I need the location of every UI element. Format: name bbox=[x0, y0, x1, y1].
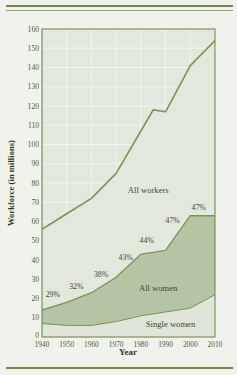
y-tick-label: 110 bbox=[28, 121, 39, 130]
percentage-annotation: 44% bbox=[140, 236, 155, 245]
y-tick-label: 100 bbox=[28, 140, 40, 149]
percentage-annotation: 47% bbox=[166, 216, 181, 225]
x-axis-title: Year bbox=[119, 347, 137, 357]
area-label: All workers bbox=[128, 185, 169, 195]
chart-figure: 102030405060708090100110120130140150160 … bbox=[0, 0, 237, 375]
percentage-annotation: 38% bbox=[94, 270, 109, 279]
y-tick-label: 160 bbox=[28, 25, 40, 34]
percentage-annotation: 29% bbox=[46, 290, 61, 299]
y-tick-label: 70 bbox=[31, 198, 39, 207]
percentage-annotation: 32% bbox=[69, 282, 84, 291]
y-tick-label: 150 bbox=[28, 44, 40, 53]
y-tick-label: 90 bbox=[31, 159, 39, 168]
x-tick-label: 1960 bbox=[84, 340, 99, 349]
y-tick-label: 20 bbox=[31, 294, 39, 303]
x-tick-label: 2000 bbox=[183, 340, 198, 349]
area-label: Single women bbox=[146, 319, 196, 329]
y-tick-label: 10 bbox=[31, 313, 39, 322]
y-axis-title: Workforce (in millions) bbox=[7, 140, 16, 226]
y-tick-label: 40 bbox=[31, 256, 39, 265]
percentage-annotation: 43% bbox=[119, 253, 134, 262]
x-tick-label: 1950 bbox=[59, 340, 74, 349]
y-tick-label: 120 bbox=[28, 102, 40, 111]
x-tick-label: 1990 bbox=[158, 340, 173, 349]
y-tick-label: 130 bbox=[28, 82, 40, 91]
y-tick-label: 140 bbox=[28, 63, 40, 72]
percentage-annotation: 47% bbox=[192, 203, 207, 212]
origin-zero-label: 0 bbox=[35, 331, 39, 340]
area-label: All women bbox=[139, 283, 178, 293]
x-tick-label: 2010 bbox=[208, 340, 223, 349]
x-tick-label: 1940 bbox=[35, 340, 50, 349]
y-axis-tick-labels: 102030405060708090100110120130140150160 bbox=[28, 25, 40, 323]
y-tick-label: 60 bbox=[31, 217, 39, 226]
y-tick-label: 50 bbox=[31, 236, 39, 245]
workforce-area-chart: 102030405060708090100110120130140150160 … bbox=[0, 0, 237, 375]
y-tick-label: 30 bbox=[31, 275, 39, 284]
y-tick-label: 80 bbox=[31, 179, 39, 188]
